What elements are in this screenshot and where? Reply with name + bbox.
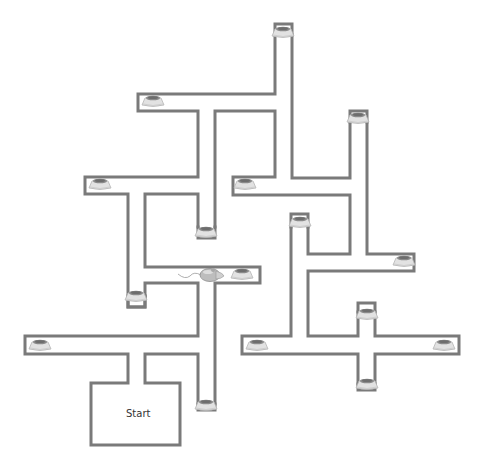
maze-wall	[292, 35, 350, 178]
bowl-icon	[142, 96, 164, 107]
bowl-icon	[231, 269, 253, 280]
bowl-icon	[393, 256, 415, 267]
start-label: Start	[126, 408, 150, 419]
mouse-icon	[178, 268, 224, 282]
maze-diagram	[0, 0, 482, 470]
maze-wall	[145, 194, 260, 404]
bowl-icon	[29, 340, 51, 351]
bowl-icon	[234, 179, 256, 190]
maze-wall	[242, 227, 358, 384]
maze-wall	[25, 283, 198, 445]
maze-walls	[25, 24, 459, 445]
bowl-icon	[246, 340, 268, 351]
bowl-icon	[433, 340, 455, 351]
bowl-icon	[89, 179, 111, 190]
maze-wall	[215, 111, 350, 254]
